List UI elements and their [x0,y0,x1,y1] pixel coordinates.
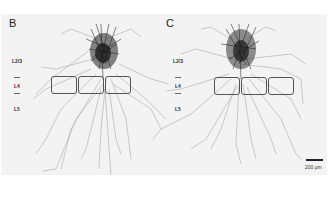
axon-reconstruction-b [31,19,171,175]
scale-bar [306,159,323,161]
layer-label-l5: L5 [14,106,20,112]
layer-divider [14,93,20,94]
barrel-box [241,77,267,95]
barrel-box [78,76,104,94]
scale-bar-label: 200 μm [305,164,322,170]
barrel-box [105,76,131,94]
barrel-box [268,77,294,95]
barrel-box [51,76,77,94]
layer-label-l23: L2/3 [12,58,22,64]
panel-letter-b: B [9,17,16,29]
layer-divider [14,77,20,78]
barrel-box [214,77,240,95]
figure-panel: B L2/3 L4 L5 C L2/3 L4 L5 [1,14,327,175]
layer-label-l4: L4 [14,83,20,89]
